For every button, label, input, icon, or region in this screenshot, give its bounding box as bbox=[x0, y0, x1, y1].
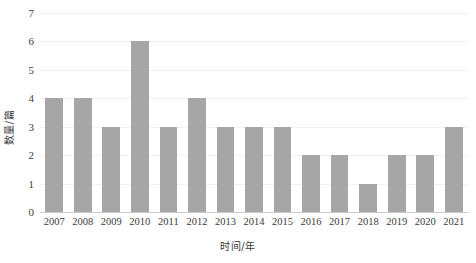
x-tick-label: 2014 bbox=[240, 216, 269, 229]
bar bbox=[217, 127, 235, 212]
x-tick-label: 2012 bbox=[183, 216, 212, 229]
bar bbox=[302, 155, 320, 212]
y-axis-title-text: 数量/篇 bbox=[2, 109, 17, 144]
y-tick-label: 6 bbox=[18, 36, 34, 47]
bar bbox=[445, 127, 463, 212]
x-tick-label: 2011 bbox=[154, 216, 183, 229]
bar bbox=[416, 155, 434, 212]
bar bbox=[245, 127, 263, 212]
y-tick-label: 7 bbox=[18, 8, 34, 19]
bar bbox=[388, 155, 406, 212]
bar-slot bbox=[382, 13, 411, 212]
x-tick-label: 2010 bbox=[126, 216, 155, 229]
bar-slot bbox=[69, 13, 98, 212]
x-axis-title-text: 时间/年 bbox=[220, 241, 255, 252]
x-tick-label: 2020 bbox=[411, 216, 440, 229]
bar-slot bbox=[240, 13, 269, 212]
y-tick-label: 1 bbox=[18, 178, 34, 189]
bar-slot bbox=[97, 13, 126, 212]
bar-slot bbox=[154, 13, 183, 212]
bar-slot bbox=[297, 13, 326, 212]
bar-slot bbox=[183, 13, 212, 212]
y-tick-label: 5 bbox=[18, 64, 34, 75]
plot-area bbox=[40, 13, 468, 213]
bar-slot bbox=[354, 13, 383, 212]
bar-chart: 数量/篇 01234567 20072008200920102011201220… bbox=[0, 0, 476, 263]
bar-slot bbox=[126, 13, 155, 212]
y-tick-label: 4 bbox=[18, 93, 34, 104]
y-tick-label: 3 bbox=[18, 121, 34, 132]
bar-slot bbox=[439, 13, 468, 212]
x-tick-label: 2017 bbox=[325, 216, 354, 229]
bars-layer bbox=[40, 13, 468, 213]
bar bbox=[45, 98, 63, 212]
x-axis-title: 时间/年 bbox=[0, 238, 476, 253]
x-axis-tick-labels: 2007200820092010201120122013201420152016… bbox=[40, 216, 468, 232]
bar-slot bbox=[325, 13, 354, 212]
x-tick-label: 2021 bbox=[439, 216, 468, 229]
x-tick-label: 2018 bbox=[354, 216, 383, 229]
bar bbox=[160, 127, 178, 212]
y-axis-tick-labels: 01234567 bbox=[18, 13, 34, 213]
x-tick-label: 2008 bbox=[69, 216, 98, 229]
bar bbox=[131, 41, 149, 212]
bar-slot bbox=[411, 13, 440, 212]
bar bbox=[102, 127, 120, 212]
y-axis-title: 数量/篇 bbox=[1, 88, 17, 166]
y-tick-label: 2 bbox=[18, 150, 34, 161]
bar-slot bbox=[211, 13, 240, 212]
bar-slot bbox=[40, 13, 69, 212]
x-tick-label: 2013 bbox=[211, 216, 240, 229]
x-tick-label: 2009 bbox=[97, 216, 126, 229]
bar bbox=[74, 98, 92, 212]
bar bbox=[188, 98, 206, 212]
x-tick-label: 2015 bbox=[268, 216, 297, 229]
x-tick-label: 2019 bbox=[382, 216, 411, 229]
x-tick-label: 2016 bbox=[297, 216, 326, 229]
bar-slot bbox=[268, 13, 297, 212]
y-tick-label: 0 bbox=[18, 207, 34, 218]
bar bbox=[274, 127, 292, 212]
bar bbox=[359, 184, 377, 212]
bar bbox=[331, 155, 349, 212]
x-tick-label: 2007 bbox=[40, 216, 69, 229]
